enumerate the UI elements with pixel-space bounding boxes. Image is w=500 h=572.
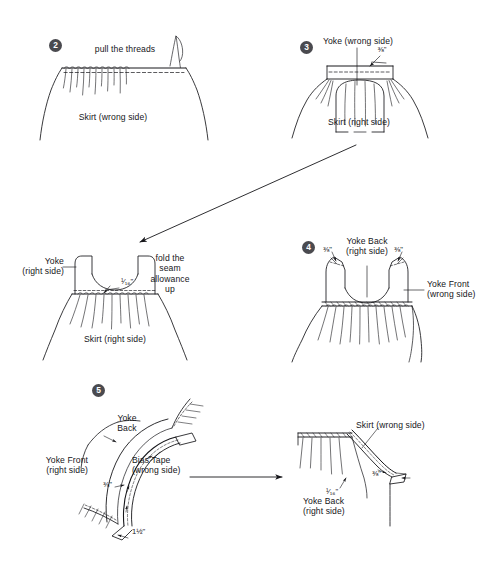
step-4-yoke-back-label: Yoke Back (right side) bbox=[346, 236, 388, 257]
step-3-skirt-label: Skirt (right side) bbox=[328, 117, 390, 127]
finished-bias-seam-measure: ⅜" bbox=[372, 470, 381, 479]
fold-panel-yoke-label: Yoke (right side) bbox=[22, 256, 64, 277]
illustration-canvas bbox=[0, 0, 500, 572]
step-badge-4: 4 bbox=[302, 241, 315, 254]
step-4-shoulder-measure-left: ⅜" bbox=[323, 246, 332, 255]
step-4-figure bbox=[292, 252, 424, 362]
finished-skirt-label: Skirt (wrong side) bbox=[356, 420, 425, 430]
arrow-step3-to-fold bbox=[140, 145, 356, 242]
sewing-instruction-sheet: 2 3 4 5 pull the threads Skirt (wrong si… bbox=[0, 0, 500, 572]
step-badge-5: 5 bbox=[92, 384, 105, 397]
fold-panel-skirt-label: Skirt (right side) bbox=[84, 334, 146, 344]
fold-panel-topstitch-measure: ¹⁄₁₆" bbox=[121, 278, 133, 287]
step-4-yoke-front-label: Yoke Front (wrong side) bbox=[427, 279, 475, 300]
step-2-skirt-label: Skirt (wrong side) bbox=[79, 112, 148, 122]
step-badge-2: 2 bbox=[49, 39, 62, 52]
step-4-shoulder-measure-right: ⅜" bbox=[394, 246, 403, 255]
fold-panel-instruction-label: fold the seam allowance up bbox=[150, 253, 189, 295]
step-5-yoke-back-label: Yoke Back bbox=[117, 413, 137, 434]
step-5-yoke-front-label: Yoke Front (right side) bbox=[46, 455, 88, 476]
step-5-bias-tape-label: Bias Tape (wrong side) bbox=[132, 455, 180, 476]
step-badge-3: 3 bbox=[300, 41, 313, 54]
step-5-bias-tail-measure: 1½" bbox=[132, 528, 145, 537]
finished-yoke-back-label: Yoke Back (right side) bbox=[303, 496, 345, 517]
step-3-seam-allowance-measure: ⅜" bbox=[377, 46, 386, 55]
step-5-bias-seam-measure: ⅜" bbox=[103, 481, 112, 490]
step-2-instruction-label: pull the threads bbox=[95, 44, 155, 54]
